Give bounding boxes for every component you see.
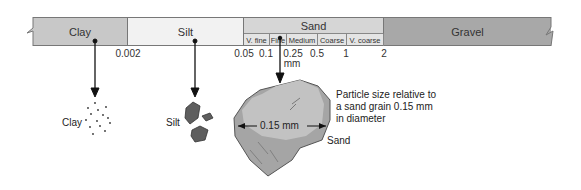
clay-particle-label: Clay bbox=[62, 117, 82, 128]
silt-arrow bbox=[191, 39, 199, 97]
sand-arrow bbox=[276, 36, 284, 83]
diameter-measurement-label: 0.15 mm bbox=[260, 120, 299, 131]
clay-arrow bbox=[91, 39, 99, 97]
right-break-mark bbox=[546, 17, 553, 46]
sand-particle-label: Sand bbox=[327, 135, 350, 146]
left-break-mark bbox=[27, 17, 33, 46]
silt-particles bbox=[185, 102, 213, 142]
silt-particle-label: Silt bbox=[166, 117, 180, 128]
clay-particles bbox=[85, 102, 111, 135]
particle-illustration bbox=[0, 0, 581, 190]
size-caption: Particle size relative to a sand grain 0… bbox=[336, 89, 436, 125]
